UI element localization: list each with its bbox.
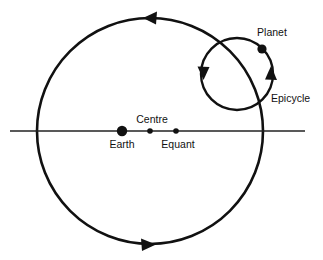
diagram-canvas: Earth Centre Equant Planet Epicycle (0, 0, 323, 260)
planet-point-marker (257, 44, 266, 53)
centre-label: Centre (136, 113, 168, 125)
epicycle-right-arrow-icon (265, 66, 277, 80)
deferent-top-arrow-icon (143, 12, 157, 25)
planet-label: Planet (257, 26, 287, 38)
centre-point-marker (147, 128, 153, 134)
earth-label: Earth (109, 138, 134, 150)
epicycle-label: Epicycle (271, 92, 310, 104)
deferent-bottom-arrow-icon (141, 239, 156, 252)
epicycle-left-arrow-icon (198, 67, 210, 81)
ptolemaic-diagram: Earth Centre Equant Planet Epicycle (0, 0, 323, 260)
equant-label: Equant (161, 138, 194, 150)
earth-point-marker (117, 126, 127, 136)
equant-point-marker (173, 128, 179, 134)
